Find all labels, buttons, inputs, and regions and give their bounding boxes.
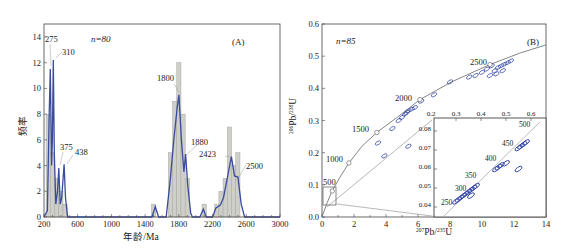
analysis-ellipse	[487, 73, 494, 79]
inset-ytick-0.08: 0.08	[419, 125, 432, 133]
peak-label-275: 275	[45, 34, 58, 44]
sample-count-b: n=85	[336, 36, 356, 46]
zoom-connector-line	[337, 204, 432, 216]
age-marker	[347, 161, 351, 165]
analysis-ellipse	[499, 68, 506, 74]
panel-a: 200600100014001800220026003000 024681012…	[17, 24, 289, 242]
y-tick-label-b: 0.2	[308, 148, 319, 158]
inset-ytick-0.06: 0.06	[419, 163, 432, 171]
y-tick-label-b: 0.6	[308, 19, 319, 29]
y-tick-label-a: 8	[37, 109, 41, 119]
y-tick-label-a: 6	[37, 135, 41, 145]
y-tick-label-a: 4	[37, 161, 42, 171]
analysis-ellipse	[395, 118, 402, 124]
analysis-ellipse	[495, 65, 502, 71]
inset-age-250: 250	[441, 198, 453, 207]
y-tick-label-a: 2	[37, 186, 41, 196]
peak-label-310: 310	[62, 47, 75, 57]
analysis-ellipse	[507, 58, 514, 64]
y-tick-label-a: 12	[33, 58, 42, 68]
x-tick-label-a: 2600	[238, 219, 255, 229]
x-axis-label-b: 207Pb/235U	[416, 227, 452, 237]
inset-xtick-0.6: 0.6	[527, 110, 536, 118]
peak-label-1880: 1880	[191, 137, 208, 147]
sample-count-a: n=80	[91, 34, 111, 44]
x-axis-label-a: 年龄/Ma	[123, 231, 159, 242]
y-tick-label-a: 10	[33, 83, 42, 93]
age-label-2500: 2500	[470, 57, 487, 67]
analysis-ellipse	[493, 71, 500, 77]
histogram-bars	[46, 63, 240, 217]
inset-age-400: 400	[485, 154, 497, 163]
y-axis-ticks-a: 02468101214	[33, 32, 48, 222]
analysis-ellipse	[501, 61, 508, 67]
peak-label-438: 438	[75, 147, 88, 157]
y-tick-label-b: 0.3	[308, 116, 319, 126]
inset-age-350: 350	[465, 171, 477, 180]
histogram-bar	[177, 63, 181, 217]
analysis-ellipse	[403, 110, 410, 116]
age-label-1000: 1000	[326, 154, 343, 164]
y-tick-label-b: 0.0	[308, 212, 319, 222]
inset-xtick-0.3: 0.3	[452, 110, 461, 118]
x-tick-label-a: 1800	[170, 219, 187, 229]
inset-ytick-0.04: 0.04	[419, 201, 432, 209]
y-tick-label-a: 0	[37, 212, 41, 222]
age-marker	[330, 189, 334, 193]
peak-label-2500: 2500	[246, 161, 263, 171]
inset-plot: 0.2 0.3 0.4 0.5 0.6 0.08 0.07 0.06 0.05 …	[419, 110, 546, 217]
inset-age-450: 450	[502, 139, 514, 148]
y-axis-label-b: 206Pb/238U	[288, 98, 298, 134]
inset-x-tick-labels: 0.2 0.3 0.4 0.5 0.6	[427, 110, 536, 118]
x-tick-label-b: 14	[542, 219, 551, 229]
plot-frame-a	[44, 24, 280, 217]
x-tick-label-a: 1000	[103, 219, 120, 229]
age-marker	[488, 62, 492, 66]
peak-label-375: 375	[60, 142, 73, 152]
inset-xtick-0.2: 0.2	[427, 110, 436, 118]
inset-ytick-0.07: 0.07	[419, 144, 432, 152]
y-tick-label-b: 0.5	[308, 51, 319, 61]
panel-label-b: (B)	[527, 37, 539, 47]
x-tick-label-b: 0	[320, 219, 324, 229]
panel-b: 02468101214 0.00.10.20.30.40.50.6 500 10…	[288, 19, 551, 237]
inset-y-tick-labels: 0.08 0.07 0.06 0.05 0.04	[419, 125, 432, 209]
peak-label-1800: 1800	[157, 73, 174, 83]
inset-age-300: 300	[455, 184, 467, 193]
analysis-ellipse	[504, 60, 511, 66]
peak-leader-lines	[50, 44, 246, 177]
y-tick-label-a: 14	[33, 32, 42, 42]
y-axis-ticks-b: 0.00.10.20.30.40.50.6	[308, 19, 325, 222]
analysis-ellipse	[447, 79, 454, 85]
y-tick-label-b: 0.4	[308, 83, 319, 93]
inset-xtick-0.4: 0.4	[477, 110, 486, 118]
age-label-1500: 1500	[352, 124, 369, 134]
x-tick-label-a: 1400	[137, 219, 154, 229]
y-axis-label-a: 频率	[17, 116, 28, 136]
age-label-2000: 2000	[395, 93, 412, 103]
peak-label-2423: 2423	[199, 149, 216, 159]
panel-label-a: (A)	[232, 37, 245, 47]
figure: 200600100014001800220026003000 024681012…	[0, 0, 567, 250]
analysis-ellipse	[389, 126, 396, 132]
x-tick-label-b: 2	[352, 219, 356, 229]
inset-ytick-0.05: 0.05	[419, 182, 432, 190]
x-tick-label-b: 12	[510, 219, 519, 229]
age-marker	[418, 97, 422, 101]
analysis-ellipse	[472, 73, 479, 79]
inset-xtick-0.5: 0.5	[502, 110, 511, 118]
y-tick-label-b: 0.1	[308, 180, 319, 190]
analysis-ellipse	[375, 140, 382, 146]
x-tick-label-b: 10	[478, 219, 487, 229]
age-marker	[375, 130, 379, 134]
x-tick-label-a: 2200	[204, 219, 221, 229]
age-label-500: 500	[323, 177, 336, 187]
x-axis-ticks-a: 200600100014001800220026003000	[38, 214, 289, 229]
analysis-ellipse	[498, 63, 505, 69]
x-tick-label-a: 600	[71, 219, 84, 229]
analysis-ellipse	[405, 143, 412, 149]
x-tick-label-a: 3000	[272, 219, 289, 229]
probability-density-curve	[44, 60, 280, 217]
inset-age-500: 500	[519, 120, 531, 129]
x-tick-label-b: 4	[384, 219, 389, 229]
